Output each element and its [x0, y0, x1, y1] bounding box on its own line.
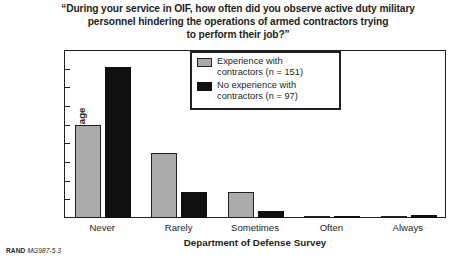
legend-item-no-experience: No experience with contractors (n = 97) — [197, 80, 335, 103]
chart-figure: “During your service in OIF, how often d… — [0, 0, 471, 267]
legend-label-no-experience: No experience with contractors (n = 97) — [217, 80, 298, 103]
chart-title: “During your service in OIF, how often d… — [38, 2, 438, 42]
x-axis-title: Department of Defense Survey — [64, 237, 446, 248]
bar-often-series-1 — [304, 216, 330, 218]
legend-label-experience: Experience with contractors (n = 151) — [217, 56, 303, 79]
bar-always-series-1 — [381, 216, 407, 218]
bar-never-series-2 — [105, 67, 131, 218]
chart-title-line-3: to perform their job?” — [38, 28, 438, 41]
bar-sometimes-series-1 — [228, 192, 254, 218]
bar-group — [64, 50, 140, 218]
legend-swatch-icon-black — [197, 82, 212, 91]
legend-label-no-experience-line-2: contractors (n = 97) — [217, 91, 298, 102]
chart-title-line-1: “During your service in OIF, how often d… — [38, 2, 438, 15]
chart-legend: Experience with contractors (n = 151) No… — [190, 51, 341, 110]
footer-figure-code: MG987-5.3 — [27, 247, 61, 254]
x-tick-label: Always — [363, 222, 453, 233]
figure-source-note: RAND MG987-5.3 — [6, 247, 61, 254]
legend-swatch-icon-gray — [197, 58, 212, 67]
footer-organization: RAND — [6, 247, 25, 254]
bar-always-series-2 — [411, 215, 437, 218]
legend-label-no-experience-line-1: No experience with — [217, 80, 298, 91]
legend-label-experience-line-2: contractors (n = 151) — [217, 67, 303, 78]
bar-rarely-series-1 — [151, 153, 177, 218]
legend-label-experience-line-1: Experience with — [217, 56, 303, 67]
legend-item-experience: Experience with contractors (n = 151) — [197, 56, 335, 79]
bar-group — [370, 50, 446, 218]
bar-often-series-2 — [334, 216, 360, 218]
bar-rarely-series-2 — [181, 192, 207, 218]
bar-sometimes-series-2 — [258, 211, 284, 218]
chart-title-line-2: personnel hindering the operations of ar… — [38, 15, 438, 28]
bar-never-series-1 — [75, 125, 101, 218]
